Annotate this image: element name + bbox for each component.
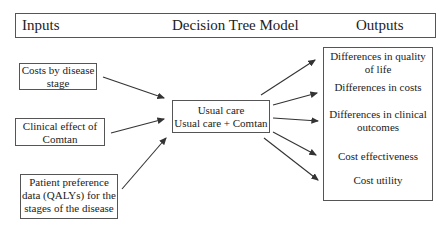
arrow-icon [103, 77, 164, 98]
arrow-icon [122, 138, 166, 189]
arrow-icon [111, 119, 164, 133]
arrow-icon [273, 132, 316, 155]
arrow-icon [273, 118, 318, 121]
connector-arrows [0, 0, 448, 230]
arrow-icon [261, 60, 315, 95]
arrow-icon [273, 93, 317, 105]
arrow-icon [264, 138, 318, 180]
